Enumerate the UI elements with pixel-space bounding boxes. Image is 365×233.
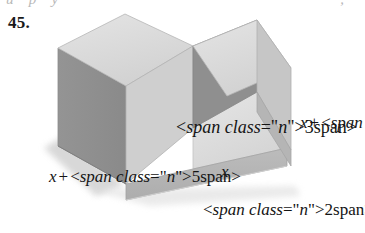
label-depth-left-text: x+<span class="n">5span> bbox=[49, 167, 241, 186]
label-depth-left: x+<span class="n">5span> bbox=[49, 168, 241, 185]
label-length-front-text: <span class="n">2span>x+<span class="n">… bbox=[203, 200, 365, 219]
label-notch-width: x bbox=[221, 163, 229, 180]
label-height-right: x+<span class="n">2span> bbox=[300, 114, 365, 131]
label-notch-width-text: x bbox=[221, 162, 229, 181]
figure-page: u · p · y ; 45. bbox=[0, 0, 365, 233]
label-height-right-text: x+<span class="n">2span> bbox=[300, 113, 365, 132]
label-length-front: <span class="n">2span>x+<span class="n">… bbox=[203, 201, 365, 218]
